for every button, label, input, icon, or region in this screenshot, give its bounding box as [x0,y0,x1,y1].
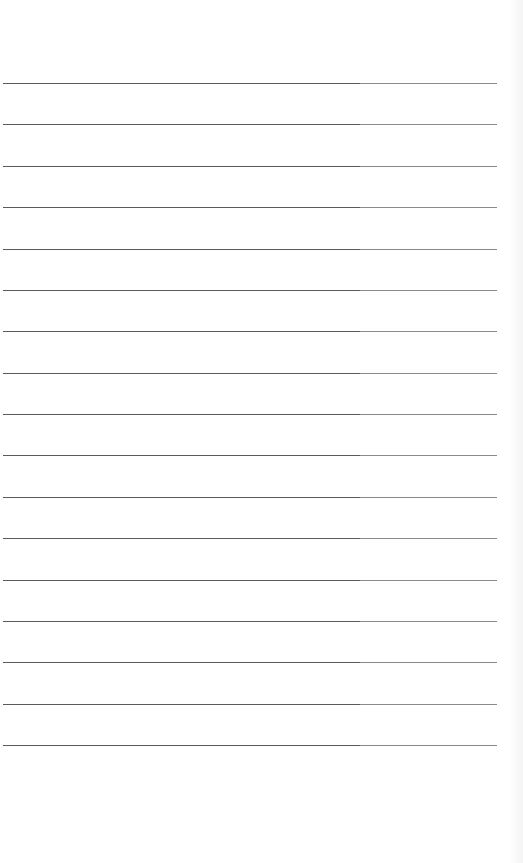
ruled-line [3,455,497,456]
ruled-line-right-segment [360,538,497,539]
ruled-line-right-segment [360,290,497,291]
ruled-line-main-segment [3,414,360,415]
ruled-line [3,704,497,705]
ruled-line [3,331,497,332]
ruled-line-main-segment [3,249,360,250]
ruled-line-right-segment [360,414,497,415]
ruled-line-right-segment [360,249,497,250]
ruled-line-main-segment [3,580,360,581]
ruled-line-main-segment [3,621,360,622]
ruled-line [3,83,497,84]
ruled-line-right-segment [360,207,497,208]
ruled-line-right-segment [360,331,497,332]
ruled-line [3,745,497,746]
ruled-line-right-segment [360,621,497,622]
ruled-line-main-segment [3,455,360,456]
ruled-line [3,249,497,250]
ruled-line-main-segment [3,207,360,208]
ruled-line [3,662,497,663]
ruled-line-right-segment [360,83,497,84]
ruled-line-main-segment [3,373,360,374]
ruled-line-right-segment [360,373,497,374]
ruled-line-main-segment [3,124,360,125]
ruled-line [3,207,497,208]
ruled-line-right-segment [360,455,497,456]
ruled-line-main-segment [3,662,360,663]
ruled-line-right-segment [360,124,497,125]
ruled-line [3,166,497,167]
ruled-line-main-segment [3,538,360,539]
ruled-line-main-segment [3,166,360,167]
ruled-line-main-segment [3,497,360,498]
ruled-line [3,290,497,291]
ruled-line-main-segment [3,331,360,332]
ruled-line-right-segment [360,662,497,663]
ruled-line [3,414,497,415]
ruled-line [3,124,497,125]
ruled-line [3,497,497,498]
page-edge-shadow [509,0,523,863]
ruled-line-right-segment [360,580,497,581]
ruled-line-main-segment [3,290,360,291]
ruled-line-main-segment [3,745,360,746]
ruled-line-main-segment [3,704,360,705]
ruled-line [3,580,497,581]
ruled-line [3,621,497,622]
ruled-line-right-segment [360,166,497,167]
ruled-line-main-segment [3,83,360,84]
lined-page [0,0,523,863]
ruled-line-right-segment [360,497,497,498]
ruled-line-right-segment [360,745,497,746]
ruled-line [3,538,497,539]
ruled-line-right-segment [360,704,497,705]
ruled-line [3,373,497,374]
